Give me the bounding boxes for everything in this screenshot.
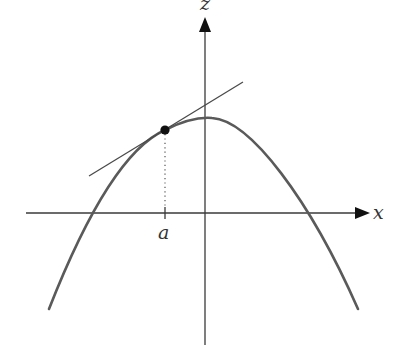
x-axis-arrow-icon	[355, 207, 370, 219]
z-axis-label: z	[199, 0, 211, 14]
x-axis-label: x	[373, 201, 384, 223]
point-a-label: a	[158, 221, 169, 243]
z-axis-arrow-icon	[199, 17, 211, 32]
tangency-point	[160, 125, 169, 134]
tangent-diagram: x z a	[0, 0, 404, 364]
